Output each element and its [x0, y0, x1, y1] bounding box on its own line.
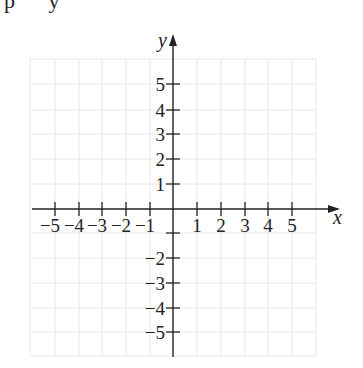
x-tick-label: 5	[287, 215, 297, 236]
y-axis-arrow-icon	[169, 34, 177, 46]
x-tick-label: −1	[135, 215, 155, 236]
y-tick-label: 1	[156, 174, 166, 195]
y-tick-label: −5	[145, 322, 165, 343]
coordinate-plane: −5 −4 −3 −2 −1 1 2 3 4 5 5 4 3 2 1 −2 −3…	[0, 0, 363, 368]
x-tick-label: 2	[216, 215, 226, 236]
x-tick-label: −2	[111, 215, 131, 236]
y-tick-label: 2	[156, 149, 166, 170]
y-axis-label: y	[156, 29, 167, 52]
x-tick-label: 3	[240, 215, 250, 236]
y-tick-label: 3	[156, 124, 166, 145]
x-axis-label: x	[332, 206, 342, 228]
y-tick-label: 4	[156, 100, 166, 121]
x-tick-label: 1	[192, 215, 202, 236]
axes	[32, 42, 332, 357]
x-tick-label: 4	[263, 215, 273, 236]
x-tick-label: −5	[40, 215, 60, 236]
y-tick-label: 5	[156, 74, 166, 95]
y-tick-label: −4	[145, 298, 166, 319]
y-tick-label: −2	[145, 248, 165, 269]
x-tick-label: −4	[64, 215, 85, 236]
y-tick-label: −3	[145, 273, 165, 294]
x-tick-label: −3	[87, 215, 107, 236]
